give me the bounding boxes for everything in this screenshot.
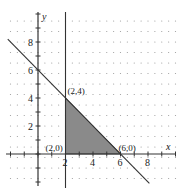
y-axis-label: y	[41, 11, 47, 22]
svg-text:(2,4): (2,4)	[68, 86, 85, 96]
y-tick-labels: 2468	[28, 37, 33, 132]
svg-text:8: 8	[28, 37, 33, 48]
svg-text:6: 6	[118, 157, 123, 168]
svg-text:8: 8	[145, 157, 150, 168]
graph: x y 2468 2468 (2,4)(2,0)(6,0)	[0, 0, 180, 190]
svg-text:2: 2	[63, 157, 68, 168]
svg-text:(6,0): (6,0)	[119, 143, 136, 153]
svg-text:4: 4	[90, 157, 95, 168]
svg-text:2: 2	[28, 121, 33, 132]
x-tick-labels: 2468	[63, 157, 151, 168]
x-axis-label: x	[165, 141, 171, 152]
svg-text:4: 4	[28, 93, 33, 104]
svg-text:(2,0): (2,0)	[46, 143, 63, 153]
svg-text:6: 6	[28, 65, 33, 76]
constraint-line-x-plus-y-6	[8, 39, 150, 183]
